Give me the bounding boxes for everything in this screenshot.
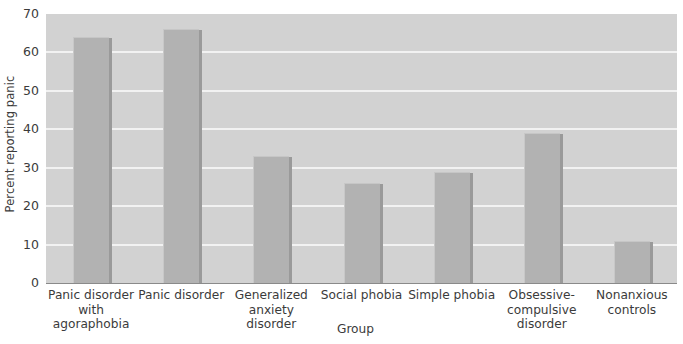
x-tick-label: Social phobia xyxy=(310,288,412,303)
bar-chart-figure: Percent reporting panic 010203040506070 … xyxy=(0,0,683,344)
y-tick-label-10: 10 xyxy=(8,237,39,252)
y-tick-label-30: 30 xyxy=(8,160,39,175)
y-tick-label-50: 50 xyxy=(8,83,39,98)
y-tick-label-0: 0 xyxy=(8,275,39,290)
x-tick-label: Panic disorder xyxy=(130,288,232,303)
bar xyxy=(73,37,109,283)
y-tick-label-20: 20 xyxy=(8,198,39,213)
gridline-30 xyxy=(46,167,677,169)
bar xyxy=(253,156,289,283)
y-tick-label-70: 70 xyxy=(8,6,39,21)
bar xyxy=(344,183,380,283)
x-tick-label: Simple phobia xyxy=(401,288,503,303)
x-tick-label: Nonanxious controls xyxy=(581,288,683,317)
gridline-50 xyxy=(46,90,677,92)
gridline-60 xyxy=(46,51,677,53)
bar xyxy=(434,172,470,283)
y-tick-label-60: 60 xyxy=(8,44,39,59)
x-axis-line xyxy=(46,283,677,284)
x-axis-title: Group xyxy=(0,322,683,336)
y-tick-label-40: 40 xyxy=(8,121,39,136)
bar xyxy=(614,241,650,283)
gridline-40 xyxy=(46,128,677,130)
plot-area xyxy=(46,14,677,283)
x-axis-title-text: Group xyxy=(337,322,374,336)
bar xyxy=(524,133,560,283)
bar xyxy=(163,29,199,283)
